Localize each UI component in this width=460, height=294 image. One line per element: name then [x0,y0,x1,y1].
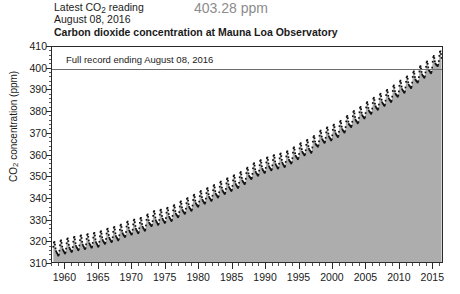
x-axis-major-tick [165,263,166,269]
x-axis-minor-tick [385,263,386,266]
x-axis-minor-tick [285,263,286,266]
x-axis-major-tick [198,263,199,269]
x-axis-minor-tick [238,263,239,266]
x-axis-minor-tick [419,263,420,266]
x-axis-minor-tick [319,263,320,266]
x-axis-minor-tick [392,263,393,266]
x-axis-minor-tick [359,263,360,266]
x-axis-minor-tick [185,263,186,266]
x-axis-major-tick [299,263,300,269]
y-axis-tick-label: 410 [3,41,47,51]
x-axis-minor-tick [352,263,353,266]
x-axis-major-tick [399,263,400,269]
x-axis-minor-tick [151,263,152,266]
x-axis-minor-tick [225,263,226,266]
co2-keeling-curve [52,47,442,262]
latest-reading-value: 403.28 ppm [194,0,268,16]
record-reference-line [52,69,443,70]
x-axis-minor-tick [439,263,440,266]
x-axis-minor-tick [205,263,206,266]
x-axis-major-tick [432,263,433,269]
x-axis-minor-tick [105,263,106,266]
y-axis-tick-label: 340 [3,193,47,203]
x-axis-minor-tick [312,263,313,266]
y-axis-tick-label: 400 [3,63,47,73]
x-axis-minor-tick [372,263,373,266]
y-axis-tick-label: 310 [3,258,47,268]
x-axis-minor-tick [325,263,326,266]
x-axis-minor-tick [412,263,413,266]
x-axis-major-tick [232,263,233,269]
y-axis-tick-labels: 310320330340350360370380390400410 [0,0,47,294]
x-axis-minor-tick [339,263,340,266]
x-axis-minor-tick [91,263,92,266]
x-axis-minor-tick [125,263,126,266]
y-axis-tick-label: 350 [3,171,47,181]
x-axis-major-tick [131,263,132,269]
x-axis-minor-tick [406,263,407,266]
x-axis-tick-labels: 1960196519701975198019851990199520002005… [0,271,460,287]
record-reference-label: Full record ending August 08, 2016 [66,54,213,66]
x-axis-minor-tick [71,263,72,266]
latest-reading-date: August 08, 2016 [54,13,130,25]
y-axis-tick-label: 380 [3,106,47,116]
x-axis-minor-tick [191,263,192,266]
latest-reading-label-post: reading [106,1,144,13]
x-axis-major-tick [365,263,366,269]
x-axis-major-tick [64,263,65,269]
x-axis-minor-tick [118,263,119,266]
y-axis-tick-label: 370 [3,128,47,138]
x-axis-minor-tick [345,263,346,266]
x-axis-major-tick [265,263,266,269]
x-axis-minor-tick [218,263,219,266]
x-axis-major-tick [98,263,99,269]
x-axis-major-tick [332,263,333,269]
plot-area[interactable]: Full record ending August 08, 2016 [51,46,443,263]
x-axis-minor-tick [258,263,259,266]
y-axis-tick-label: 390 [3,84,47,94]
x-axis-minor-tick [252,263,253,266]
x-axis-minor-tick [145,263,146,266]
x-axis-minor-tick [305,263,306,266]
x-axis-minor-tick [379,263,380,266]
x-axis-minor-tick [426,263,427,266]
x-axis-minor-tick [278,263,279,266]
x-axis-minor-tick [171,263,172,266]
x-axis-minor-tick [178,263,179,266]
x-axis-minor-tick [245,263,246,266]
x-axis-minor-tick [138,263,139,266]
y-axis-tick-label: 330 [3,215,47,225]
x-axis-minor-tick [78,263,79,266]
x-axis-minor-tick [272,263,273,266]
x-axis-minor-tick [58,263,59,266]
x-axis-tick-label: 2015 [412,271,452,283]
x-axis-minor-tick [292,263,293,266]
x-axis-minor-tick [111,263,112,266]
chart-header: Latest CO2 reading August 08, 2016 403.2… [0,0,460,46]
page-title: Carbon dioxide concentration at Mauna Lo… [54,26,338,39]
x-axis-minor-tick [158,263,159,266]
x-axis-ticks [51,263,443,270]
latest-reading-label-pre: Latest CO [54,1,101,13]
x-axis-minor-tick [51,263,52,266]
x-axis-minor-tick [212,263,213,266]
y-axis-tick-label: 320 [3,236,47,246]
co2-area-fill [53,51,441,262]
x-axis-minor-tick [84,263,85,266]
y-axis-tick-label: 360 [3,150,47,160]
